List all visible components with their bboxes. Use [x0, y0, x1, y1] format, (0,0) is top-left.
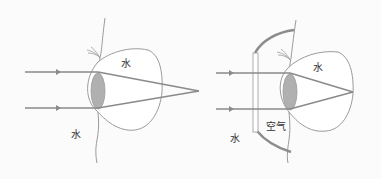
right-panel: 水 水 空气: [216, 20, 353, 163]
goggle-frame-bottom: [257, 131, 291, 152]
eyelash-icon: [277, 49, 290, 60]
arrow-icon: [229, 70, 234, 76]
lens-right: [283, 74, 297, 110]
label-goggle-air: 空气: [266, 120, 286, 132]
diagram-canvas: 水 水 水 水 空气: [0, 0, 381, 179]
arrow-icon: [56, 69, 61, 75]
label-eye-water-right: 水: [313, 62, 323, 73]
label-outside-water-right: 水: [230, 133, 240, 144]
left-panel: 水 水: [25, 18, 199, 163]
eyelash-icon: [87, 47, 100, 58]
label-outside-water-left: 水: [71, 129, 81, 140]
goggle-frame-top: [255, 30, 294, 53]
lens-left: [91, 73, 105, 109]
arrow-icon: [229, 106, 234, 112]
label-eye-water-left: 水: [121, 58, 131, 69]
goggle-glass: [253, 53, 258, 132]
arrow-icon: [56, 105, 61, 111]
eye-optics-diagram: 水 水 水 水 空气: [0, 0, 381, 179]
